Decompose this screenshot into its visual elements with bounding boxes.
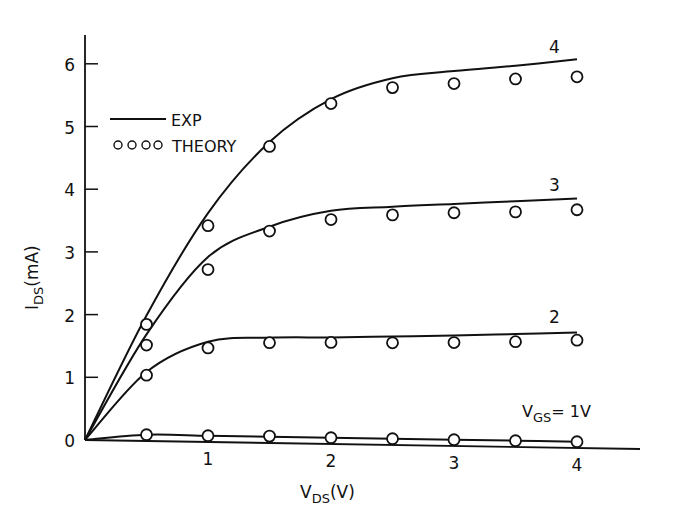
theory-point [572, 335, 583, 346]
theory-point [449, 337, 460, 348]
theory-point [326, 337, 337, 348]
theory-point [264, 226, 275, 237]
theory-point [510, 73, 521, 84]
theory-point [326, 98, 337, 109]
x-tick-label: 1 [203, 449, 214, 469]
y-tick-label: 2 [64, 306, 75, 326]
iv-characteristics-chart: 01234561234VDS(V)IDS(mA) EXPTHEORY 432VG… [0, 0, 673, 529]
legend-circle-icon [114, 141, 122, 149]
theory-point [264, 141, 275, 152]
theory-point [449, 78, 460, 89]
theory-point [572, 204, 583, 215]
y-tick-label: 4 [64, 180, 75, 200]
curve-label: 2 [549, 307, 560, 327]
y-tick-label: 1 [64, 368, 75, 388]
theory-point [387, 433, 398, 444]
theory-point [572, 436, 583, 447]
theory-point [449, 434, 460, 445]
theory-point [203, 342, 214, 353]
labels: 432VGS= 1V [522, 37, 591, 425]
theory-point [141, 370, 152, 381]
y-tick-label: 3 [64, 243, 75, 263]
theory-point [510, 206, 521, 217]
legend-label-theory: THEORY [171, 137, 237, 156]
curve-label-vgs-1v: VGS= 1V [522, 402, 591, 425]
theory-point [572, 71, 583, 82]
theory-point [449, 207, 460, 218]
x-axis-label: VDS(V) [300, 482, 355, 506]
theory-point [141, 319, 152, 330]
legend-circle-icon [154, 141, 162, 149]
exp-curves [85, 59, 577, 441]
theory-point [510, 435, 521, 446]
theory-point [141, 429, 152, 440]
theory-point [203, 220, 214, 231]
theory-point [510, 336, 521, 347]
legend: EXPTHEORY [110, 111, 237, 156]
curve-label: 4 [549, 37, 560, 57]
theory-point [326, 432, 337, 443]
legend-circle-icon [142, 141, 150, 149]
y-tick-label: 6 [64, 55, 75, 75]
exp-curve-vgs-4 [85, 59, 577, 440]
theory-point [387, 209, 398, 220]
x-tick-label: 3 [449, 453, 460, 473]
legend-label-exp: EXP [171, 111, 202, 130]
theory-point [203, 430, 214, 441]
theory-point [326, 214, 337, 225]
x-tick-label: 4 [572, 455, 583, 475]
theory-point [141, 340, 152, 351]
curve-label: 3 [549, 175, 560, 195]
y-axis-label: IDS(mA) [22, 245, 46, 310]
exp-curve-vgs-3 [85, 199, 577, 441]
y-tick-label: 0 [64, 431, 75, 451]
chart-container: 01234561234VDS(V)IDS(mA) EXPTHEORY 432VG… [0, 0, 673, 529]
y-tick-label: 5 [64, 118, 75, 138]
theory-point [264, 431, 275, 442]
legend-circle-icon [128, 141, 136, 149]
theory-point [387, 337, 398, 348]
x-tick-label: 2 [326, 451, 337, 471]
theory-point [387, 82, 398, 93]
theory-point [203, 264, 214, 275]
theory-point [264, 337, 275, 348]
theory-points [141, 71, 583, 447]
